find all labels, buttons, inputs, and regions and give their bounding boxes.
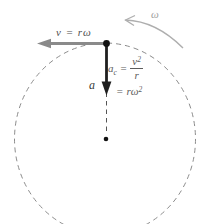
- line2-term: rω2: [126, 86, 142, 97]
- center-dot: [104, 137, 109, 142]
- acceleration-label: a: [89, 79, 95, 91]
- formula-ac-term: ac: [108, 63, 117, 74]
- fraction-numerator: v2: [130, 56, 143, 69]
- rotation-diagram: v = rω ω a ac = v2 r = rω2: [0, 0, 202, 224]
- formula-line2: = rω2: [116, 86, 142, 97]
- particle-dot: [103, 40, 110, 47]
- fraction-denominator: r: [134, 69, 138, 81]
- dashed-circle-path: [15, 43, 196, 224]
- formula-equals: =: [120, 63, 127, 74]
- velocity-arrowhead: [37, 39, 51, 48]
- acceleration-arrowhead: [102, 82, 112, 96]
- line2-equals: =: [116, 86, 123, 97]
- velocity-label: v = rω: [56, 27, 92, 38]
- formula-fraction: v2 r: [130, 56, 143, 81]
- centripetal-formula: ac = v2 r: [108, 56, 143, 81]
- omega-label: ω: [151, 9, 159, 20]
- diagram-canvas: [0, 0, 202, 224]
- omega-arc: [126, 20, 184, 48]
